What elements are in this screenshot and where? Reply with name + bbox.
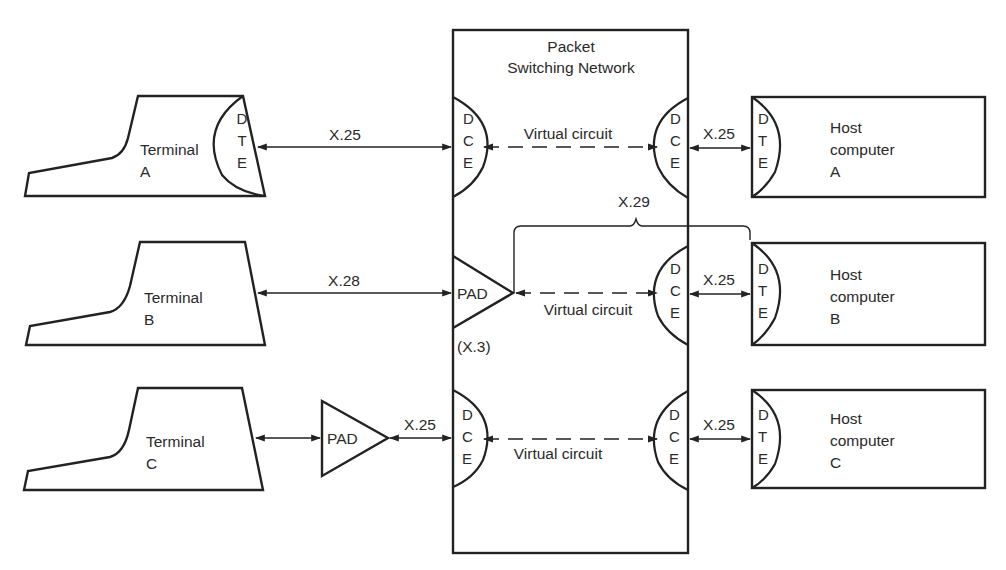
dce-letter: D bbox=[462, 406, 473, 423]
host-a-line1: Host bbox=[830, 119, 863, 136]
network-title-line1: Packet bbox=[547, 38, 595, 55]
host-a-id: A bbox=[830, 163, 841, 180]
x29-label: X.29 bbox=[618, 193, 650, 210]
dte-letter: D bbox=[758, 406, 769, 423]
pad-external-label: PAD bbox=[327, 430, 358, 447]
link-a-right-label: X.25 bbox=[703, 125, 735, 142]
dte-letter: E bbox=[237, 154, 247, 171]
dte-letter: T bbox=[758, 132, 767, 149]
dte-letter: E bbox=[758, 450, 768, 467]
dce-letter: D bbox=[463, 110, 474, 127]
dce-letter: E bbox=[670, 304, 680, 321]
dce-letter: C bbox=[463, 132, 474, 149]
dce-letter: C bbox=[670, 132, 681, 149]
dce-letter: C bbox=[669, 428, 680, 445]
virtual-circuit-b-label: Virtual circuit bbox=[544, 301, 633, 318]
dce-letter: E bbox=[669, 450, 679, 467]
host-b-line1: Host bbox=[830, 266, 863, 283]
pad-external: PAD bbox=[322, 401, 388, 476]
dte-letter: E bbox=[758, 304, 768, 321]
terminal-a: D T E Terminal A bbox=[25, 96, 265, 196]
network-title-line2: Switching Network bbox=[507, 59, 635, 76]
dce-letter: C bbox=[670, 282, 681, 299]
terminal-c-label: Terminal bbox=[146, 433, 205, 450]
packet-switching-diagram: Packet Switching Network D T E Terminal … bbox=[0, 0, 1006, 570]
terminal-a-label: Terminal bbox=[140, 141, 199, 158]
dte-letter: D bbox=[237, 110, 248, 127]
dce-letter: E bbox=[463, 154, 473, 171]
terminal-c-shape bbox=[24, 388, 263, 490]
dte-letter: D bbox=[758, 110, 769, 127]
terminal-c: Terminal C bbox=[24, 388, 263, 490]
dce-letter: C bbox=[462, 428, 473, 445]
dce-letter: E bbox=[462, 450, 472, 467]
dte-letter: D bbox=[758, 260, 769, 277]
terminal-a-id: A bbox=[140, 163, 151, 180]
dte-letter: E bbox=[758, 154, 768, 171]
link-b-right-label: X.25 bbox=[703, 271, 735, 288]
dce-letter: E bbox=[670, 154, 680, 171]
network-box bbox=[453, 30, 688, 553]
terminal-b-id: B bbox=[144, 311, 154, 328]
pad-protocol-label: (X.3) bbox=[457, 338, 491, 355]
host-computer-b: D T E Host computer B bbox=[752, 243, 985, 345]
host-c-line1: Host bbox=[830, 410, 863, 427]
link-b-left-label: X.28 bbox=[328, 272, 360, 289]
host-a-line2: computer bbox=[830, 141, 895, 158]
terminal-b-label: Terminal bbox=[144, 289, 203, 306]
host-b-line2: computer bbox=[830, 288, 895, 305]
link-c-left-label: X.25 bbox=[404, 416, 436, 433]
host-computer-c: D T E Host computer C bbox=[752, 390, 985, 488]
terminal-c-id: C bbox=[146, 455, 157, 472]
link-c-right-label: X.25 bbox=[703, 416, 735, 433]
dte-letter: T bbox=[758, 282, 767, 299]
link-a-left-label: X.25 bbox=[329, 126, 361, 143]
host-c-line2: computer bbox=[830, 432, 895, 449]
dce-letter: D bbox=[669, 406, 680, 423]
dte-letter: T bbox=[758, 428, 767, 445]
host-computer-a: D T E Host computer A bbox=[752, 97, 985, 197]
host-b-id: B bbox=[830, 310, 840, 327]
dte-letter: T bbox=[237, 132, 246, 149]
virtual-circuit-a-label: Virtual circuit bbox=[524, 125, 613, 142]
pad-network-label: PAD bbox=[457, 285, 488, 302]
dce-letter: D bbox=[670, 110, 681, 127]
terminal-b: Terminal B bbox=[26, 242, 265, 345]
packet-switching-network: Packet Switching Network bbox=[453, 30, 688, 553]
host-c-id: C bbox=[830, 454, 841, 471]
dce-letter: D bbox=[670, 260, 681, 277]
virtual-circuit-c-label: Virtual circuit bbox=[514, 445, 603, 462]
